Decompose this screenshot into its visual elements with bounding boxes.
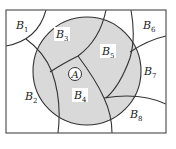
partition-diagram: B1 B2 B3 B4 B5 B6 B7 B8 A (0, 0, 176, 149)
label-b7: B7 (143, 65, 157, 80)
label-b1: B1 (15, 19, 29, 34)
label-b2: B2 (24, 90, 38, 105)
label-b6: B6 (142, 19, 156, 34)
label-b8: B8 (129, 108, 143, 123)
label-a: A (71, 69, 79, 80)
